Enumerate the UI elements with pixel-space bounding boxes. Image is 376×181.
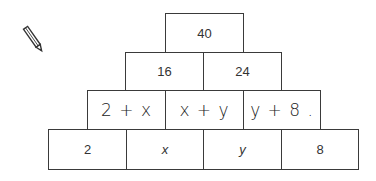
pyramid-base-cell-2: x	[126, 129, 204, 170]
cell-value: x	[162, 142, 169, 157]
pyramid-base-cell-3: y	[203, 129, 282, 170]
pyramid-row3-cell-3[interactable]: y + 8 .	[243, 90, 321, 130]
pencil-icon	[22, 22, 46, 56]
handwritten-answer: y + 8 .	[250, 100, 314, 120]
cell-value: 16	[157, 64, 171, 79]
handwritten-answer: 2 + x	[101, 100, 152, 120]
pyramid-base-cell-1: 2	[48, 129, 127, 170]
cell-value: 2	[84, 142, 91, 157]
cell-value: 8	[316, 142, 323, 157]
pyramid-row2-cell-2: 24	[203, 52, 282, 91]
cell-value: 24	[235, 64, 249, 79]
cell-value: y	[239, 142, 246, 157]
pyramid-top-cell: 40	[165, 13, 244, 53]
cell-value: 40	[197, 26, 211, 41]
handwritten-answer: x + y	[179, 100, 229, 120]
pyramid-row2-cell-1: 16	[125, 52, 204, 91]
pyramid-row3-cell-2[interactable]: x + y	[165, 90, 244, 130]
pyramid-row3-cell-1[interactable]: 2 + x	[87, 90, 166, 130]
pyramid-base-cell-4: 8	[281, 129, 359, 170]
